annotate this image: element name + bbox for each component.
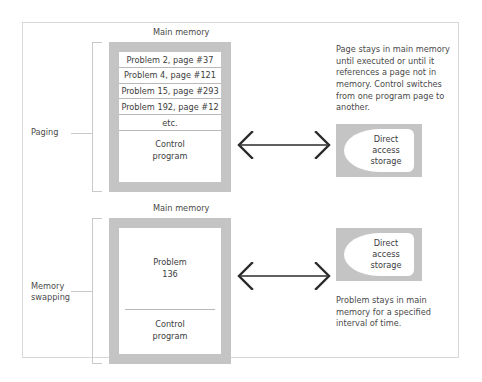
page-list-item: Problem 2, page #37 <box>119 52 221 68</box>
page-list-item: Problem 15, page #293 <box>119 84 221 100</box>
storage-line1: Direct <box>374 238 399 249</box>
caption-memory-swapping: Problem stays in main memory for a speci… <box>336 295 454 330</box>
main-memory-box-paging: Problem 2, page #37 Problem 4, page #121… <box>109 42 231 192</box>
bracket-label-paging: Paging <box>31 128 58 138</box>
main-memory-inner-swapping: Problem 136 Control program <box>119 228 221 354</box>
control-program-line2: program <box>153 331 188 343</box>
problem-line2: 136 <box>162 269 178 281</box>
bracket-paging <box>92 42 102 192</box>
main-memory-inner-paging: Problem 2, page #37 Problem 4, page #121… <box>119 52 221 182</box>
bracket-memory-swapping <box>92 218 102 364</box>
problem-line1: Problem <box>153 257 186 269</box>
bracket-stem-paging <box>71 133 93 134</box>
storage-line3: storage <box>370 260 401 271</box>
bracket-stem-memory-swapping <box>71 291 93 292</box>
storage-label-swapping: Direct access storage <box>344 233 414 276</box>
storage-line2: access <box>372 249 400 260</box>
caption-paging: Page stays in main memory until executed… <box>336 44 456 114</box>
control-program-line2: program <box>119 151 221 163</box>
control-program-line1: Control <box>119 139 221 151</box>
storage-line3: storage <box>370 156 401 167</box>
control-program-line1: Control <box>155 319 185 331</box>
main-memory-title-swapping: Main memory <box>153 204 209 214</box>
double-arrow-swapping <box>235 262 333 294</box>
direct-access-storage-paging: Direct access storage <box>336 124 422 177</box>
storage-line1: Direct <box>374 134 399 145</box>
figure-frame: Paging Main memory Problem 2, page #37 P… <box>22 22 459 358</box>
storage-label-paging: Direct access storage <box>344 129 414 172</box>
bracket-label-line1: Memory <box>31 281 70 292</box>
control-program-label-swapping: Control program <box>119 310 221 354</box>
bracket-label-line2: swapping <box>31 292 70 303</box>
direct-access-storage-swapping: Direct access storage <box>336 228 422 281</box>
page-list-item: Problem 4, page #121 <box>119 68 221 84</box>
problem-label: Problem 136 <box>119 228 221 309</box>
control-program-label-paging: Control program <box>119 131 221 163</box>
main-memory-title-paging: Main memory <box>153 28 209 38</box>
storage-line2: access <box>372 145 400 156</box>
double-arrow-paging <box>235 131 333 163</box>
page-list-item-etc: etc. <box>119 115 221 131</box>
bracket-label-memory-swapping: Memory swapping <box>31 281 70 302</box>
page-list-item: Problem 192, page #12 <box>119 99 221 115</box>
main-memory-box-swapping: Problem 136 Control program <box>109 218 231 364</box>
